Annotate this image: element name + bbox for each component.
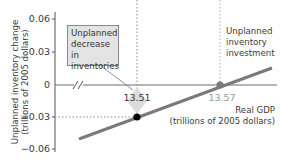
- line-label-1: Unplanned: [226, 26, 272, 36]
- tick-label-0.03: 0.03: [29, 46, 50, 57]
- tick-label-neg-0.03: −0.03: [21, 111, 50, 122]
- tick-label-0: 0: [44, 79, 50, 90]
- x-value-13.57: 13.57: [208, 92, 235, 103]
- unplanned-inventory-investment-line: [79, 68, 272, 139]
- callout-line-1: Unplanned: [71, 28, 115, 39]
- line-label-2: inventory: [226, 37, 267, 47]
- line-label-3: investment: [226, 48, 275, 58]
- axis-break-icon: [73, 81, 83, 89]
- x-axis-label-line1: Real GDP: [235, 105, 275, 115]
- y-axis-label-line1: Unplanned inventory change: [10, 20, 20, 144]
- point-13.51: [133, 113, 140, 120]
- x-axis-label-line2: (trillions of 2005 dollars): [170, 116, 275, 126]
- x-value-13.51: 13.51: [123, 92, 150, 103]
- chart-canvas: Unplanned inventory change (trillions of…: [0, 0, 285, 162]
- tick-label-neg-0.06: −0.06: [21, 143, 50, 154]
- callout-unplanned-decrease: Unplanned decrease in inventories: [67, 25, 119, 66]
- callout-line-2: decrease in: [71, 39, 115, 61]
- tick-label-0.06: 0.06: [29, 13, 50, 24]
- y-axis-label: Unplanned inventory change (trillions of…: [10, 20, 30, 144]
- callout-line-3: inventories: [71, 61, 115, 72]
- point-13.57: [216, 81, 223, 88]
